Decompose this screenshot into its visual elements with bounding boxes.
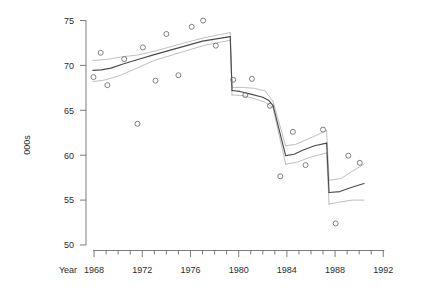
data-point — [249, 76, 254, 81]
data-point — [357, 160, 362, 165]
y-tick-label-55: 55 — [64, 195, 74, 205]
y-tick-label-75: 75 — [64, 16, 74, 26]
x-tick-label-1980: 1980 — [229, 265, 249, 275]
fitted-segmented-trend-break-2 — [273, 105, 286, 155]
data-point — [321, 127, 326, 132]
x-axis-title: Year — [59, 265, 77, 275]
lower-confidence-band-segment-2 — [232, 95, 273, 108]
segmented-regression-scatter-chart: 505560657075 196819721976198019841988199… — [0, 0, 431, 294]
x-tick-label-1988: 1988 — [325, 265, 345, 275]
x-tick-label-1976: 1976 — [180, 265, 200, 275]
y-axis: 505560657075 — [64, 16, 86, 251]
upper-confidence-band-break-2 — [273, 101, 286, 145]
data-point — [153, 78, 158, 83]
data-point — [201, 18, 206, 23]
y-tick-label-65: 65 — [64, 106, 74, 116]
data-point — [176, 73, 181, 78]
lower-confidence-band-segment-4 — [329, 200, 364, 204]
fitted-trend-lines — [93, 37, 364, 193]
lower-confidence-band-break-2 — [273, 108, 286, 165]
y-tick-label-50: 50 — [64, 240, 74, 250]
upper-confidence-band-segment-3 — [286, 131, 327, 146]
fitted-segmented-trend-break-1 — [230, 37, 232, 91]
data-points — [91, 18, 362, 226]
chart-container: 505560657075 196819721976198019841988199… — [0, 0, 431, 294]
upper-confidence-band-segment-1 — [93, 33, 230, 61]
data-point — [333, 221, 338, 226]
x-tick-label-1984: 1984 — [277, 265, 297, 275]
data-point — [135, 121, 140, 126]
data-point — [91, 75, 96, 80]
data-point — [140, 45, 145, 50]
confidence-band-lines — [93, 33, 364, 205]
x-tick-label-1972: 1972 — [132, 265, 152, 275]
y-tick-label-60: 60 — [64, 151, 74, 161]
data-point — [346, 153, 351, 158]
lower-confidence-band-segment-1 — [93, 40, 230, 81]
data-point — [303, 163, 308, 168]
data-point — [105, 83, 110, 88]
data-point — [122, 57, 127, 62]
fitted-segmented-trend-segment-4 — [329, 183, 364, 192]
data-point — [98, 50, 103, 55]
x-tick-label-1968: 1968 — [84, 265, 104, 275]
x-axis: 1968197219761980198419881992 — [84, 251, 393, 275]
data-point — [278, 174, 283, 179]
data-point — [290, 129, 295, 134]
upper-confidence-band-segment-4 — [329, 164, 364, 180]
data-point — [213, 43, 218, 48]
y-tick-label-70: 70 — [64, 61, 74, 71]
data-point — [189, 24, 194, 29]
fitted-segmented-trend-segment-1 — [93, 37, 230, 71]
data-point — [164, 31, 169, 36]
y-axis-title: 000s — [22, 135, 32, 155]
x-tick-label-1992: 1992 — [373, 265, 393, 275]
